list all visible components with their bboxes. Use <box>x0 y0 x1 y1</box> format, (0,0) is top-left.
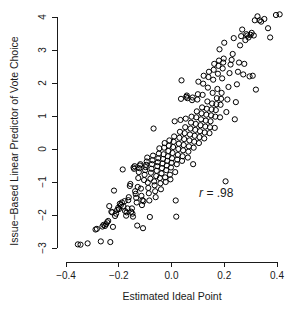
data-point <box>230 51 235 56</box>
data-point <box>277 12 282 17</box>
axes-layer <box>52 17 277 267</box>
x-tick-label: −0.2 <box>109 270 129 281</box>
data-points-layer <box>75 12 282 248</box>
data-point <box>222 40 227 45</box>
data-point <box>201 81 206 86</box>
data-point <box>210 90 215 95</box>
data-point <box>233 100 238 105</box>
data-point <box>153 189 158 194</box>
data-point <box>236 60 241 65</box>
data-point <box>153 195 158 200</box>
data-point <box>186 149 191 154</box>
data-point <box>148 176 153 181</box>
data-point <box>178 96 183 101</box>
scatter-plot-figure: −3−2−101234−0.4−0.20.00.20.4 Issue−Based… <box>0 0 303 314</box>
data-point <box>135 223 140 228</box>
x-tick-label: 0.0 <box>165 270 179 281</box>
data-point <box>220 76 225 81</box>
data-point <box>110 224 115 229</box>
x-tick-label: 0.4 <box>270 270 284 281</box>
data-point <box>211 77 216 82</box>
data-point <box>181 148 186 153</box>
y-tick-label: 3 <box>37 47 48 53</box>
data-point <box>146 191 151 196</box>
data-point <box>225 97 230 102</box>
data-point <box>241 72 246 77</box>
data-point <box>232 117 237 122</box>
x-tick-label: −0.4 <box>56 270 76 281</box>
data-point <box>182 137 187 142</box>
data-point <box>182 131 187 136</box>
data-point <box>253 87 258 92</box>
data-point <box>235 69 240 74</box>
data-point <box>215 71 220 76</box>
y-tick-label: −3 <box>37 242 48 254</box>
data-point <box>172 134 177 139</box>
data-point <box>268 35 273 40</box>
y-tick-label: 2 <box>37 80 48 86</box>
data-point <box>146 185 151 190</box>
y-tick-label: 1 <box>37 113 48 119</box>
data-point <box>170 150 175 155</box>
chart-canvas: −3−2−101234−0.4−0.20.00.20.4 Issue−Based… <box>0 0 303 314</box>
data-point <box>231 36 236 41</box>
data-point <box>181 142 186 147</box>
data-point <box>172 119 177 124</box>
y-tick-label: 4 <box>37 14 48 20</box>
data-point <box>108 239 113 244</box>
data-point <box>191 145 196 150</box>
data-point <box>140 226 145 231</box>
data-point <box>196 140 201 145</box>
data-point <box>107 203 112 208</box>
data-point <box>217 47 222 52</box>
data-point <box>191 162 196 167</box>
data-point <box>223 179 228 184</box>
data-point <box>185 155 190 160</box>
data-point <box>111 188 116 193</box>
data-point <box>240 27 245 32</box>
data-point <box>220 66 225 71</box>
data-point <box>141 177 146 182</box>
data-point <box>224 109 229 114</box>
x-tick-label: 0.2 <box>217 270 231 281</box>
data-point <box>239 34 244 39</box>
data-point <box>179 78 184 83</box>
data-point <box>226 84 231 89</box>
data-point <box>183 116 188 121</box>
correlation-annotation: r = .98 <box>199 186 234 200</box>
data-point <box>234 82 239 87</box>
data-point <box>173 170 178 175</box>
data-point <box>85 241 90 246</box>
data-point <box>237 43 242 48</box>
data-point <box>158 187 163 192</box>
data-point <box>174 214 179 219</box>
data-point <box>120 167 125 172</box>
data-point <box>202 136 207 141</box>
data-point <box>98 239 103 244</box>
y-axis-title: Issue−Based Linear Predictor of Vote Cho… <box>8 36 20 245</box>
data-point <box>227 71 232 76</box>
data-point <box>211 67 216 72</box>
data-point <box>219 90 224 95</box>
data-point <box>183 125 188 130</box>
data-point <box>147 198 152 203</box>
data-point <box>250 73 255 78</box>
data-point <box>151 126 156 131</box>
data-point <box>147 214 152 219</box>
axis-labels-layer: −3−2−101234−0.4−0.20.00.20.4 <box>37 14 284 281</box>
data-point <box>173 198 178 203</box>
data-point <box>242 61 247 66</box>
y-tick-label: −2 <box>37 209 48 221</box>
data-point <box>215 86 220 91</box>
data-point <box>158 181 163 186</box>
data-point <box>265 26 270 31</box>
data-point <box>136 175 141 180</box>
x-axis-title: Estimated Ideal Point <box>122 290 221 302</box>
data-point <box>205 85 210 90</box>
data-point <box>178 117 183 122</box>
data-point <box>195 97 200 102</box>
y-tick-label: −1 <box>37 176 48 188</box>
correlation-value: = .98 <box>203 186 234 200</box>
y-tick-label: 0 <box>37 146 48 152</box>
